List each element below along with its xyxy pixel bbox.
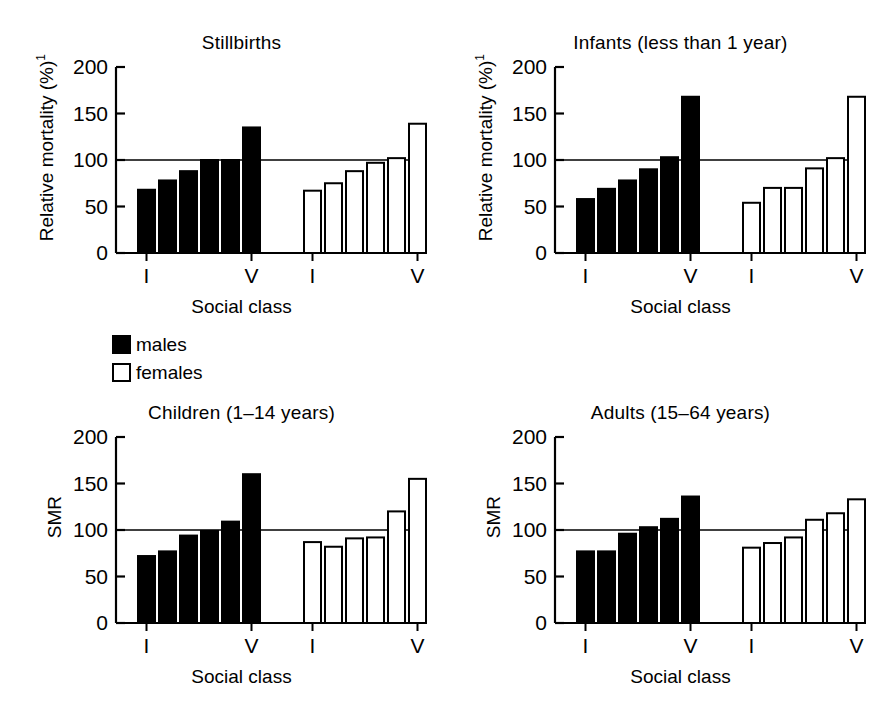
bar-females-II xyxy=(325,183,342,253)
bar-females-V xyxy=(409,479,426,623)
bar-females-II xyxy=(764,543,781,623)
bar-males-IV xyxy=(661,519,678,623)
panel-infants: Infants (less than 1 year) Relative mort… xyxy=(439,18,878,348)
x-tick-label: V xyxy=(244,264,258,287)
bar-females-I xyxy=(304,542,321,623)
legend-swatch-females-icon xyxy=(112,363,131,382)
y-tick-label: 200 xyxy=(512,55,547,78)
x-tick-label: I xyxy=(749,264,755,287)
x-tick-label: I xyxy=(749,634,755,657)
x-tick-label: V xyxy=(683,264,697,287)
figure-mortality-by-social-class: Stillbirths Relative mortality (%)1 0501… xyxy=(0,0,878,707)
y-tick-label: 50 xyxy=(85,565,108,588)
bar-males-IV xyxy=(222,160,239,253)
bar-males-V xyxy=(682,497,699,623)
bar-females-IIIN xyxy=(346,538,363,623)
x-axis-label-infants: Social class xyxy=(439,296,878,318)
bar-males-IIIM xyxy=(201,531,218,623)
bar-males-IIIN xyxy=(619,534,636,623)
bar-females-IIIN xyxy=(785,188,802,253)
bar-females-V xyxy=(848,499,865,623)
panel-stillbirths: Stillbirths Relative mortality (%)1 0501… xyxy=(0,18,439,348)
plot-stillbirths: 050100150200IVIV xyxy=(0,18,439,318)
legend-label-males: males xyxy=(136,335,187,354)
plot-infants: 050100150200IVIV xyxy=(439,18,878,318)
bar-males-IV xyxy=(661,157,678,253)
bar-males-II xyxy=(159,180,176,253)
y-tick-label: 150 xyxy=(512,102,547,125)
x-tick-label: V xyxy=(410,634,424,657)
x-axis-label-stillbirths: Social class xyxy=(0,296,439,318)
bar-females-V xyxy=(409,124,426,253)
plot-adults: 050100150200IVIV xyxy=(439,388,878,688)
y-tick-label: 0 xyxy=(96,241,108,264)
bar-females-I xyxy=(743,203,760,253)
bar-males-IIIN xyxy=(180,536,197,623)
x-axis-label-children: Social class xyxy=(0,666,439,688)
x-tick-label: V xyxy=(849,264,863,287)
y-tick-label: 50 xyxy=(524,565,547,588)
y-tick-label: 50 xyxy=(85,195,108,218)
y-tick-label: 150 xyxy=(73,472,108,495)
x-axis-label-adults: Social class xyxy=(439,666,878,688)
bar-females-IV xyxy=(827,513,844,623)
bar-males-I xyxy=(138,190,155,253)
y-tick-label: 100 xyxy=(73,518,108,541)
x-tick-label: I xyxy=(583,264,589,287)
x-tick-label: V xyxy=(244,634,258,657)
bar-males-IIIM xyxy=(640,169,657,253)
x-tick-label: I xyxy=(310,634,316,657)
bar-females-IIIM xyxy=(367,537,384,623)
panel-children: Children (1–14 years) SMR 050100150200IV… xyxy=(0,388,439,707)
legend-item-females: females xyxy=(112,358,203,386)
bar-males-IIIM xyxy=(201,160,218,253)
bar-males-IIIM xyxy=(640,527,657,623)
bar-females-IIIN xyxy=(785,537,802,623)
y-tick-label: 100 xyxy=(73,148,108,171)
bar-females-II xyxy=(325,547,342,623)
bar-males-II xyxy=(159,551,176,623)
legend-label-females: females xyxy=(136,363,203,382)
bar-females-IIIM xyxy=(806,168,823,253)
y-tick-label: 150 xyxy=(512,472,547,495)
y-tick-label: 200 xyxy=(73,55,108,78)
bar-females-IV xyxy=(388,511,405,623)
x-tick-label: V xyxy=(849,634,863,657)
bar-females-IIIN xyxy=(346,171,363,253)
plot-children: 050100150200IVIV xyxy=(0,388,439,688)
bar-males-V xyxy=(243,127,260,253)
bar-females-II xyxy=(764,188,781,253)
bar-males-IV xyxy=(222,522,239,623)
y-tick-label: 200 xyxy=(73,425,108,448)
bar-females-I xyxy=(743,548,760,623)
y-tick-label: 100 xyxy=(512,518,547,541)
x-tick-label: I xyxy=(144,634,150,657)
y-tick-label: 200 xyxy=(512,425,547,448)
legend-item-males: males xyxy=(112,330,203,358)
bar-males-V xyxy=(682,97,699,253)
y-tick-label: 0 xyxy=(535,611,547,634)
x-tick-label: V xyxy=(683,634,697,657)
y-tick-label: 100 xyxy=(512,148,547,171)
y-tick-label: 0 xyxy=(96,611,108,634)
bar-males-V xyxy=(243,474,260,623)
bar-males-I xyxy=(577,551,594,623)
panel-adults: Adults (15–64 years) SMR 050100150200IVI… xyxy=(439,388,878,707)
bar-females-I xyxy=(304,191,321,253)
x-tick-label: V xyxy=(410,264,424,287)
y-tick-label: 0 xyxy=(535,241,547,264)
x-tick-label: I xyxy=(310,264,316,287)
bar-males-II xyxy=(598,189,615,253)
x-tick-label: I xyxy=(144,264,150,287)
bar-females-IIIM xyxy=(367,163,384,253)
y-tick-label: 150 xyxy=(73,102,108,125)
bar-females-IV xyxy=(388,158,405,253)
bar-males-IIIN xyxy=(180,171,197,253)
bar-males-IIIN xyxy=(619,180,636,253)
x-tick-label: I xyxy=(583,634,589,657)
y-tick-label: 50 xyxy=(524,195,547,218)
bar-females-V xyxy=(848,97,865,253)
bar-females-IIIM xyxy=(806,520,823,623)
bar-females-IV xyxy=(827,158,844,253)
bar-males-I xyxy=(138,556,155,623)
